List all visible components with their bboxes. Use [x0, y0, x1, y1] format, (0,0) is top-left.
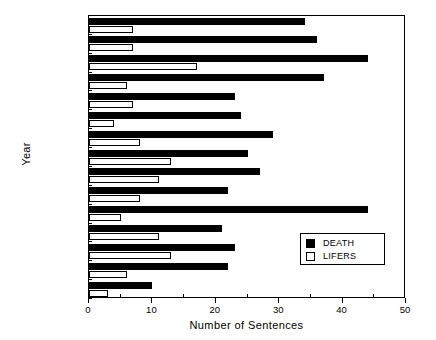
y-axis-tick-mark [88, 34, 92, 35]
x-axis-title: Number of Sentences [88, 319, 405, 331]
y-axis-tick-mark [88, 185, 92, 186]
bar-lifers [89, 26, 133, 33]
bar-group [89, 150, 404, 169]
x-axis-tick-mark [151, 298, 152, 303]
y-axis-tick-mark [88, 279, 92, 280]
bar-death [89, 187, 228, 194]
legend-item-label: LIFERS [323, 251, 356, 261]
bar-group [89, 206, 404, 225]
y-axis-tick-mark [88, 72, 92, 73]
x-axis-tick-label: 0 [73, 304, 103, 315]
chart-legend: DEATH LIFERS [300, 233, 385, 265]
x-axis-minor-tick-mark [247, 294, 248, 298]
x-axis-tick-label: 50 [390, 304, 420, 315]
bar-death [89, 206, 368, 213]
bar-death [89, 131, 273, 138]
y-axis-tick-mark [88, 109, 92, 110]
x-axis-tick-mark [405, 298, 406, 303]
x-axis-tick-label: 40 [327, 304, 357, 315]
y-axis-tick-mark [88, 204, 92, 205]
x-axis-tick-label: 10 [136, 304, 166, 315]
x-axis-tick-label: 20 [200, 304, 230, 315]
x-axis-tick-mark [342, 298, 343, 303]
bar-chart: Year 19881987198619851984198319821981198… [0, 0, 436, 340]
x-axis-tick-mark [278, 298, 279, 303]
bar-death [89, 168, 260, 175]
x-axis-tick-label: 30 [263, 304, 293, 315]
bar-group [89, 168, 404, 187]
bar-death [89, 74, 324, 81]
bar-lifers [89, 82, 127, 89]
bar-death [89, 244, 235, 251]
x-axis-minor-tick-mark [310, 294, 311, 298]
x-axis-tick-mark [215, 298, 216, 303]
filled-square-icon [306, 239, 315, 248]
bar-lifers [89, 233, 159, 240]
bar-death [89, 225, 222, 232]
bar-death [89, 36, 317, 43]
y-axis-tick-mark [88, 147, 92, 148]
bar-group [89, 93, 404, 112]
y-axis-tick-mark [88, 241, 92, 242]
bar-lifers [89, 176, 159, 183]
y-axis-tick-mark [88, 260, 92, 261]
x-axis-minor-tick-mark [183, 294, 184, 298]
bar-group [89, 74, 404, 93]
bar-group [89, 18, 404, 37]
bar-lifers [89, 214, 121, 221]
bar-lifers [89, 252, 171, 259]
legend-item-label: DEATH [323, 238, 354, 248]
x-axis-minor-tick-mark [373, 294, 374, 298]
y-axis-tick-mark [88, 90, 92, 91]
bar-death [89, 55, 368, 62]
legend-item-lifers: LIFERS [306, 250, 384, 262]
bar-death [89, 282, 152, 289]
bar-lifers [89, 271, 127, 278]
y-axis-tick-mark [88, 128, 92, 129]
y-axis-tick-mark [88, 223, 92, 224]
bar-death [89, 263, 228, 270]
y-axis-tick-mark [88, 166, 92, 167]
y-axis-title: Year [20, 124, 32, 184]
bar-lifers [89, 290, 108, 297]
bar-lifers [89, 63, 197, 70]
bar-death [89, 150, 248, 157]
bar-group [89, 36, 404, 55]
bar-group [89, 187, 404, 206]
bar-group [89, 131, 404, 150]
bar-group [89, 55, 404, 74]
bar-lifers [89, 120, 114, 127]
bar-lifers [89, 139, 140, 146]
bar-lifers [89, 158, 171, 165]
y-axis-tick-mark [88, 53, 92, 54]
x-axis-tick-mark [88, 298, 89, 303]
bar-lifers [89, 195, 140, 202]
bar-lifers [89, 44, 133, 51]
bar-death [89, 93, 235, 100]
hollow-square-icon [306, 252, 315, 261]
bar-group [89, 263, 404, 282]
bar-lifers [89, 101, 133, 108]
bar-death [89, 112, 241, 119]
legend-item-death: DEATH [306, 237, 384, 249]
bar-death [89, 18, 305, 25]
x-axis-minor-tick-mark [120, 294, 121, 298]
bar-group [89, 112, 404, 131]
